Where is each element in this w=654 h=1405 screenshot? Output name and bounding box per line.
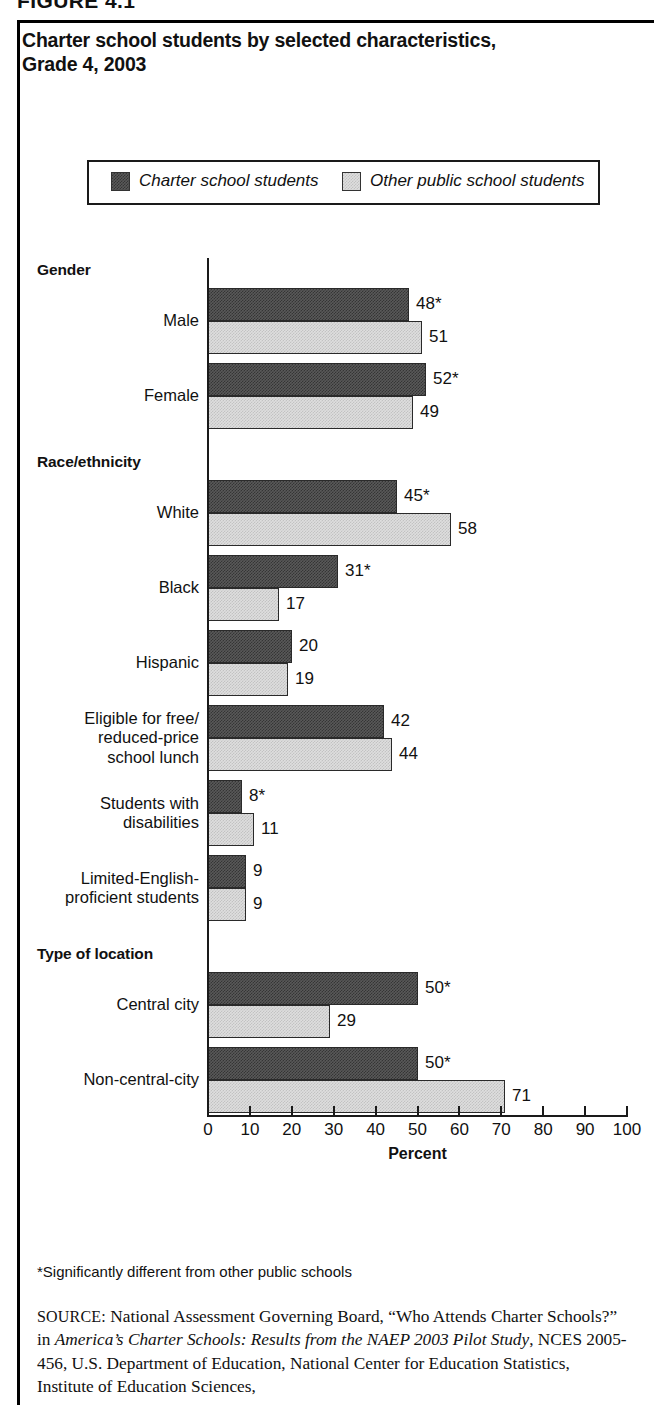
legend-item-charter: Charter school students [111, 171, 319, 191]
chart-legend: Charter school students Other public sch… [87, 160, 600, 205]
figure-title-line-1: Charter school students by selected char… [22, 28, 582, 52]
source-prefix: SOURCE: [37, 1308, 106, 1325]
legend-label-other-public: Other public school students [370, 171, 585, 191]
figure-title-line-2: Grade 4, 2003 [22, 52, 582, 76]
figure-frame [17, 20, 654, 1405]
legend-item-other-public: Other public school students [342, 171, 585, 191]
legend-swatch-other-public-icon [342, 172, 361, 191]
figure-number: FIGURE 4.1 [17, 0, 135, 13]
chart-footnote: *Significantly different from other publ… [37, 1263, 352, 1280]
legend-label-charter: Charter school students [139, 171, 319, 191]
chart-source-note: SOURCE: National Assessment Governing Bo… [37, 1305, 627, 1398]
source-publication-title: America’s Charter Schools: Results from … [55, 1330, 529, 1349]
legend-swatch-charter-icon [111, 172, 130, 191]
figure-title: Charter school students by selected char… [22, 28, 582, 76]
